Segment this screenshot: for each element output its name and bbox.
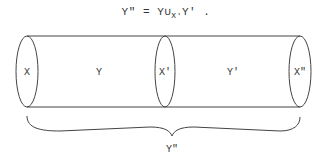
label-y: Y	[96, 67, 102, 78]
label-x-prime: X'	[159, 67, 171, 78]
cylinder-diagram: X Y X' Y' X" Y"	[0, 0, 332, 157]
label-x: X	[24, 67, 30, 78]
brace	[27, 116, 300, 136]
label-y-prime: Y'	[227, 67, 239, 78]
label-x-double-prime: X"	[294, 67, 306, 78]
label-brace-y-double-prime: Y"	[166, 144, 178, 155]
